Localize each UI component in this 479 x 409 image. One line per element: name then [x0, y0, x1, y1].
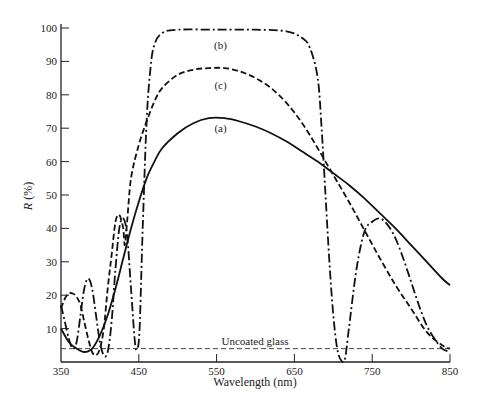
x-tick-label: 750 [364, 365, 381, 377]
curves [61, 29, 450, 362]
labels: (a)(b)(c) [214, 39, 227, 136]
curve-b [61, 29, 450, 362]
y-tick-label: 90 [46, 55, 58, 67]
reflectance-chart: 102030405060708090100350450550650750850 … [0, 0, 479, 409]
reference-label: Uncoated glass [222, 335, 289, 347]
y-tick-label: 20 [46, 289, 58, 301]
y-axis-title: R (%) [21, 182, 35, 211]
x-tick-label: 350 [53, 365, 70, 377]
y-tick-label: 60 [46, 156, 58, 168]
y-axis-unit: (%) [21, 182, 35, 203]
curve-label-b: (b) [214, 39, 227, 52]
y-tick-label: 100 [41, 22, 58, 34]
y-tick-label: 80 [46, 89, 58, 101]
x-axis-title: Wavelength (nm) [213, 375, 296, 389]
curve-c [61, 68, 450, 356]
curve-label-c: (c) [214, 79, 227, 92]
x-tick-label: 850 [442, 365, 459, 377]
x-tick-label: 450 [131, 365, 148, 377]
y-tick-label: 70 [46, 122, 58, 134]
y-tick-label: 50 [46, 189, 58, 201]
curve-a [61, 118, 450, 352]
y-tick-label: 40 [46, 222, 58, 234]
uncoated-glass-line: Uncoated glass [61, 335, 450, 349]
y-tick-label: 10 [46, 323, 58, 335]
curve-label-a: (a) [214, 122, 227, 135]
y-tick-label: 30 [46, 256, 58, 268]
